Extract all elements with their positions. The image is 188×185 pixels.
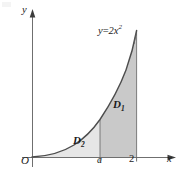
region-d2-fill	[32, 120, 100, 158]
y-axis-label: y	[22, 5, 27, 16]
origin-label: O	[21, 155, 29, 166]
curve-equation-label: y=2x2	[98, 24, 122, 36]
region-d1-fill	[100, 31, 137, 158]
region-d1-letter: D	[113, 98, 121, 110]
equation-coefficient: 2x	[109, 25, 119, 36]
y-axis-arrow	[30, 9, 36, 18]
region-d2-letter: D	[73, 134, 81, 146]
x-axis-label: x	[167, 154, 172, 165]
region-d2-subscript: 2	[81, 140, 85, 149]
x-tick-label-2: 2	[129, 154, 134, 165]
equation-exponent: 2	[119, 23, 123, 31]
x-tick-label-a: a	[97, 155, 102, 165]
region-d1-subscript: 1	[121, 104, 125, 113]
region-d1-label: D1	[113, 99, 125, 113]
region-d2-label: D2	[73, 135, 85, 149]
math-figure: y=2x2 D1 D2 O a 2 x y	[0, 0, 188, 185]
